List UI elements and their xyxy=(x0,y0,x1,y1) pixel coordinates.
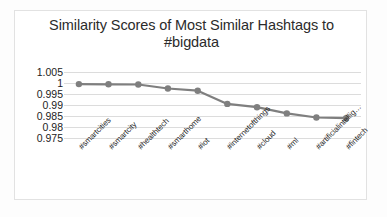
plot-area: 1.00510.9950.990.9850.980.975 #smartciti… xyxy=(15,11,368,201)
x-axis-tick-label: #smartcity xyxy=(107,120,138,151)
x-axis-tick-label: #ml xyxy=(285,136,300,151)
x-axis-tick-label: #cloud xyxy=(255,129,278,152)
x-axis-tick-label: #iot xyxy=(196,136,211,151)
x-axis-tick-label: #healthtech xyxy=(136,117,171,152)
x-axis-category-labels: #smartcities#smartcity#healthtech#smarth… xyxy=(64,11,361,201)
chart-container: Similarity Scores of Most Similar Hashta… xyxy=(14,10,367,200)
